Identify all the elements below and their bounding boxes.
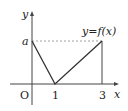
x-tick-3: 3	[99, 89, 106, 102]
y-axis-arrow-icon	[30, 11, 34, 16]
x-axis-arrow-icon	[114, 82, 119, 86]
x-tick-1: 1	[52, 89, 59, 102]
y-axis-label: y	[21, 8, 29, 21]
function-graph: y a O 1 3 x y=f(x)	[0, 0, 128, 111]
origin-label: O	[20, 89, 29, 102]
x-axis-label: x	[114, 88, 121, 101]
curve-label: y=f(x)	[81, 25, 116, 38]
y-tick-a: a	[22, 35, 29, 48]
function-curve	[32, 41, 102, 84]
